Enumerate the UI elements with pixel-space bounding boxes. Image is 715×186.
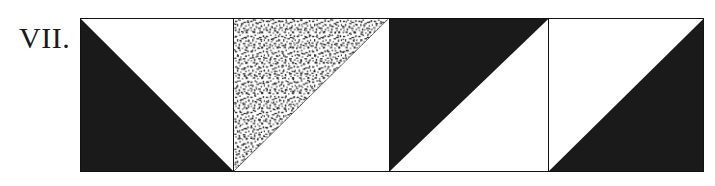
panel-2-triangle — [234, 19, 388, 171]
panel-strip — [80, 18, 704, 172]
panel-3-triangle — [390, 19, 548, 171]
panel-4 — [548, 19, 703, 171]
panel-2 — [233, 19, 388, 171]
panel-4-triangle — [549, 19, 703, 171]
figure-plate-vii: VII. — [0, 0, 715, 186]
figure-label: VII. — [19, 19, 79, 57]
panel-3 — [389, 19, 548, 171]
panel-1-triangle — [81, 19, 233, 171]
panel-1 — [81, 19, 233, 171]
